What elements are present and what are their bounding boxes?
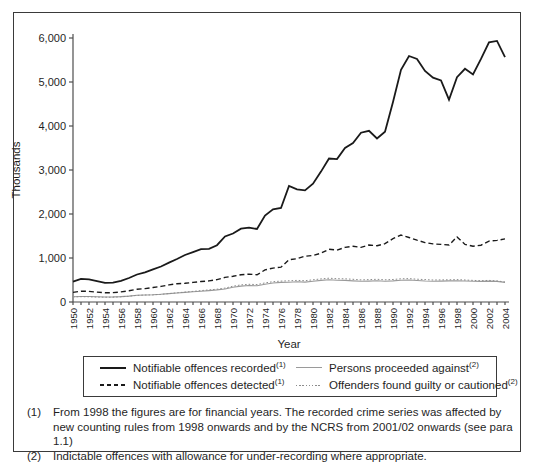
x-tick-label: 1982 [324, 308, 335, 329]
legend-footnote-marker: (2) [469, 360, 479, 369]
x-tick-label: 2004 [500, 308, 511, 329]
x-tick-label: 2000 [468, 308, 479, 329]
x-tick-label: 1978 [292, 308, 303, 329]
legend-item-offences-detected: Notifiable offences detected(1) [100, 379, 296, 391]
x-tick-label: 1966 [196, 308, 207, 329]
y-tick-label: 5,000 [38, 76, 66, 88]
series-line-solid-thin [73, 280, 505, 297]
y-tick-label: 0 [60, 296, 66, 308]
legend-item-offences-recorded: Notifiable offences recorded(1) [100, 362, 296, 374]
x-tick-label: 1954 [100, 308, 111, 329]
y-tick-label: 4,000 [38, 120, 66, 132]
footnote-text: Indictable offences with allowance for u… [53, 449, 515, 464]
legend-label: Offenders found guilty or cautioned [329, 379, 508, 391]
legend-label: Notifiable offences recorded [133, 362, 276, 374]
legend-footnote-marker: (1) [276, 360, 286, 369]
dotted-line-key-icon [296, 385, 322, 387]
footnote-2: (2) Indictable offences with allowance f… [27, 449, 519, 464]
x-tick-label: 2002 [484, 308, 495, 329]
legend-label: Notifiable offences detected [133, 379, 275, 391]
y-tick-label: 1,000 [38, 252, 66, 264]
x-tick-label: 1986 [356, 308, 367, 329]
x-tick-label: 1990 [388, 308, 399, 329]
footnote-1: (1) From 1998 the figures are for financ… [27, 405, 519, 449]
legend-footnote-marker: (1) [275, 377, 285, 386]
x-tick-label: 1994 [420, 308, 431, 329]
x-tick-label: 1992 [404, 308, 415, 329]
y-tick-label: 3,000 [38, 164, 66, 176]
series-line-dashed [73, 235, 505, 293]
x-tick-label: 1980 [308, 308, 319, 329]
y-tick-label: 6,000 [38, 32, 66, 44]
x-tick-label: 1984 [340, 308, 351, 329]
x-axis-title: Year [277, 338, 300, 350]
x-tick-label: 1950 [68, 308, 79, 329]
x-tick-label: 1952 [84, 308, 95, 329]
chart-plot: 01,0002,0003,0004,0005,0006,000195019521… [8, 8, 531, 356]
x-tick-label: 1960 [148, 308, 159, 329]
x-tick-label: 1956 [116, 308, 127, 329]
legend-label: Persons proceeded against [329, 362, 469, 374]
x-tick-label: 1988 [372, 308, 383, 329]
x-tick-label: 1976 [276, 308, 287, 329]
footnote-text: From 1998 the figures are for financial … [53, 405, 515, 449]
y-axis-title: Thousands [10, 141, 22, 198]
x-tick-label: 1996 [436, 308, 447, 329]
legend: Notifiable offences recorded(1) Persons … [83, 356, 497, 397]
x-tick-label: 1972 [244, 308, 255, 329]
footnote-marker: (1) [27, 405, 53, 449]
footnote-marker: (2) [27, 449, 53, 464]
dashed-line-key-icon [100, 384, 126, 386]
solid-thin-line-key-icon [296, 367, 322, 368]
figure: 01,0002,0003,0004,0005,0006,000195019521… [0, 0, 539, 472]
y-tick-label: 2,000 [38, 208, 66, 220]
x-tick-label: 1958 [132, 308, 143, 329]
x-tick-label: 1974 [260, 308, 271, 329]
legend-item-persons-proceeded: Persons proceeded against(2) [296, 362, 518, 374]
series-line-solid-thick [73, 41, 505, 283]
x-tick-label: 1970 [228, 308, 239, 329]
x-tick-label: 1968 [212, 308, 223, 329]
x-tick-label: 1964 [180, 308, 191, 329]
legend-item-guilty-or-cautioned: Offenders found guilty or cautioned(2) [296, 379, 518, 391]
x-tick-label: 1962 [164, 308, 175, 329]
footnotes: (1) From 1998 the figures are for financ… [27, 405, 519, 464]
x-tick-label: 1998 [452, 308, 463, 329]
solid-thick-line-key-icon [100, 367, 126, 369]
legend-footnote-marker: (2) [508, 377, 518, 386]
